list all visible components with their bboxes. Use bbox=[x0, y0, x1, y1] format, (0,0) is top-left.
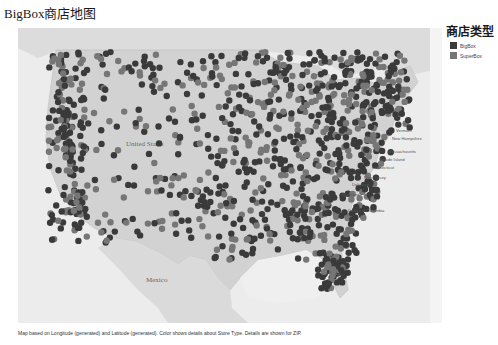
store-dot[interactable] bbox=[200, 113, 206, 119]
store-dot[interactable] bbox=[371, 101, 377, 107]
store-dot[interactable] bbox=[252, 189, 258, 195]
store-dot[interactable] bbox=[46, 149, 52, 155]
store-dot[interactable] bbox=[58, 225, 64, 231]
store-dot[interactable] bbox=[216, 233, 222, 239]
store-dot[interactable] bbox=[288, 110, 294, 116]
store-dot[interactable] bbox=[69, 146, 75, 152]
store-dot[interactable] bbox=[342, 80, 348, 86]
store-dot[interactable] bbox=[331, 74, 337, 80]
store-dot[interactable] bbox=[294, 211, 300, 217]
store-dot[interactable] bbox=[161, 81, 167, 87]
store-dot[interactable] bbox=[264, 206, 270, 212]
store-dot[interactable] bbox=[152, 77, 158, 83]
store-dot[interactable] bbox=[379, 148, 385, 154]
store-dot[interactable] bbox=[382, 54, 388, 60]
store-dot[interactable] bbox=[277, 55, 283, 61]
store-dot[interactable] bbox=[208, 53, 214, 59]
store-dot[interactable] bbox=[55, 167, 61, 173]
store-dot[interactable] bbox=[170, 175, 176, 181]
store-dot[interactable] bbox=[339, 127, 345, 133]
store-dot[interactable] bbox=[341, 209, 347, 215]
store-dot[interactable] bbox=[115, 58, 121, 64]
store-dot[interactable] bbox=[141, 58, 147, 64]
store-dot[interactable] bbox=[262, 217, 268, 223]
store-dot[interactable] bbox=[369, 187, 375, 193]
store-dot[interactable] bbox=[325, 95, 331, 101]
store-dot[interactable] bbox=[373, 50, 379, 56]
store-dot[interactable] bbox=[273, 67, 279, 73]
store-dot[interactable] bbox=[104, 238, 110, 244]
store-dot[interactable] bbox=[287, 222, 293, 228]
store-dot[interactable] bbox=[228, 84, 234, 90]
store-dot[interactable] bbox=[326, 210, 332, 216]
store-dot[interactable] bbox=[92, 177, 98, 183]
store-dot[interactable] bbox=[186, 227, 192, 233]
store-dot[interactable] bbox=[112, 228, 118, 234]
store-dot[interactable] bbox=[265, 131, 271, 137]
store-dot[interactable] bbox=[342, 69, 348, 75]
store-dot[interactable] bbox=[392, 111, 398, 117]
store-dot[interactable] bbox=[137, 69, 143, 75]
store-dot[interactable] bbox=[299, 134, 305, 140]
store-dot[interactable] bbox=[390, 88, 396, 94]
store-dot[interactable] bbox=[46, 64, 52, 70]
store-dot[interactable] bbox=[230, 111, 236, 117]
store-dot[interactable] bbox=[141, 129, 147, 135]
store-dot[interactable] bbox=[267, 115, 273, 121]
store-dot[interactable] bbox=[285, 50, 291, 56]
store-dot[interactable] bbox=[103, 51, 109, 57]
store-dot[interactable] bbox=[288, 167, 294, 173]
store-dot[interactable] bbox=[401, 57, 407, 63]
store-dot[interactable] bbox=[63, 154, 69, 160]
legend-item-bigbox[interactable]: BigBox bbox=[450, 41, 498, 50]
store-dot[interactable] bbox=[278, 172, 284, 178]
store-dot[interactable] bbox=[55, 89, 61, 95]
store-dot[interactable] bbox=[320, 129, 326, 135]
store-dot[interactable] bbox=[331, 91, 337, 97]
store-dot[interactable] bbox=[325, 153, 331, 159]
store-dot[interactable] bbox=[102, 211, 108, 217]
store-dot[interactable] bbox=[320, 250, 326, 256]
store-dot[interactable] bbox=[60, 70, 66, 76]
store-dot[interactable] bbox=[131, 164, 137, 170]
store-dot[interactable] bbox=[402, 99, 408, 105]
store-dot[interactable] bbox=[235, 128, 241, 134]
store-dot[interactable] bbox=[287, 133, 293, 139]
store-dot[interactable] bbox=[258, 233, 264, 239]
store-dot[interactable] bbox=[293, 190, 299, 196]
store-dot[interactable] bbox=[270, 163, 276, 169]
store-dot[interactable] bbox=[381, 134, 387, 140]
store-dot[interactable] bbox=[214, 82, 220, 88]
store-dot[interactable] bbox=[249, 250, 255, 256]
store-dot[interactable] bbox=[184, 70, 190, 76]
store-dot[interactable] bbox=[71, 113, 77, 119]
store-dot[interactable] bbox=[137, 232, 143, 238]
store-dot[interactable] bbox=[143, 123, 149, 129]
store-dot[interactable] bbox=[229, 128, 235, 134]
store-dot[interactable] bbox=[84, 67, 90, 73]
store-dot[interactable] bbox=[111, 177, 117, 183]
store-dot[interactable] bbox=[175, 175, 181, 181]
store-dot[interactable] bbox=[244, 179, 250, 185]
store-dot[interactable] bbox=[348, 91, 354, 97]
store-dot[interactable] bbox=[106, 118, 112, 124]
store-dot[interactable] bbox=[262, 49, 268, 55]
store-dot[interactable] bbox=[230, 159, 236, 165]
store-dot[interactable] bbox=[330, 266, 336, 272]
store-dot[interactable] bbox=[107, 219, 113, 225]
store-dot[interactable] bbox=[281, 166, 287, 172]
store-dot[interactable] bbox=[75, 238, 81, 244]
store-dot[interactable] bbox=[194, 126, 200, 132]
store-dot[interactable] bbox=[319, 82, 325, 88]
store-dot[interactable] bbox=[309, 209, 315, 215]
store-dot[interactable] bbox=[368, 124, 374, 130]
store-dot[interactable] bbox=[368, 73, 374, 79]
store-dot[interactable] bbox=[68, 81, 74, 87]
store-dot[interactable] bbox=[208, 153, 214, 159]
store-dot[interactable] bbox=[304, 178, 310, 184]
store-dot[interactable] bbox=[259, 211, 265, 217]
store-dot[interactable] bbox=[353, 85, 359, 91]
store-dot[interactable] bbox=[286, 92, 292, 98]
store-dot[interactable] bbox=[85, 120, 91, 126]
store-dot[interactable] bbox=[330, 258, 336, 264]
